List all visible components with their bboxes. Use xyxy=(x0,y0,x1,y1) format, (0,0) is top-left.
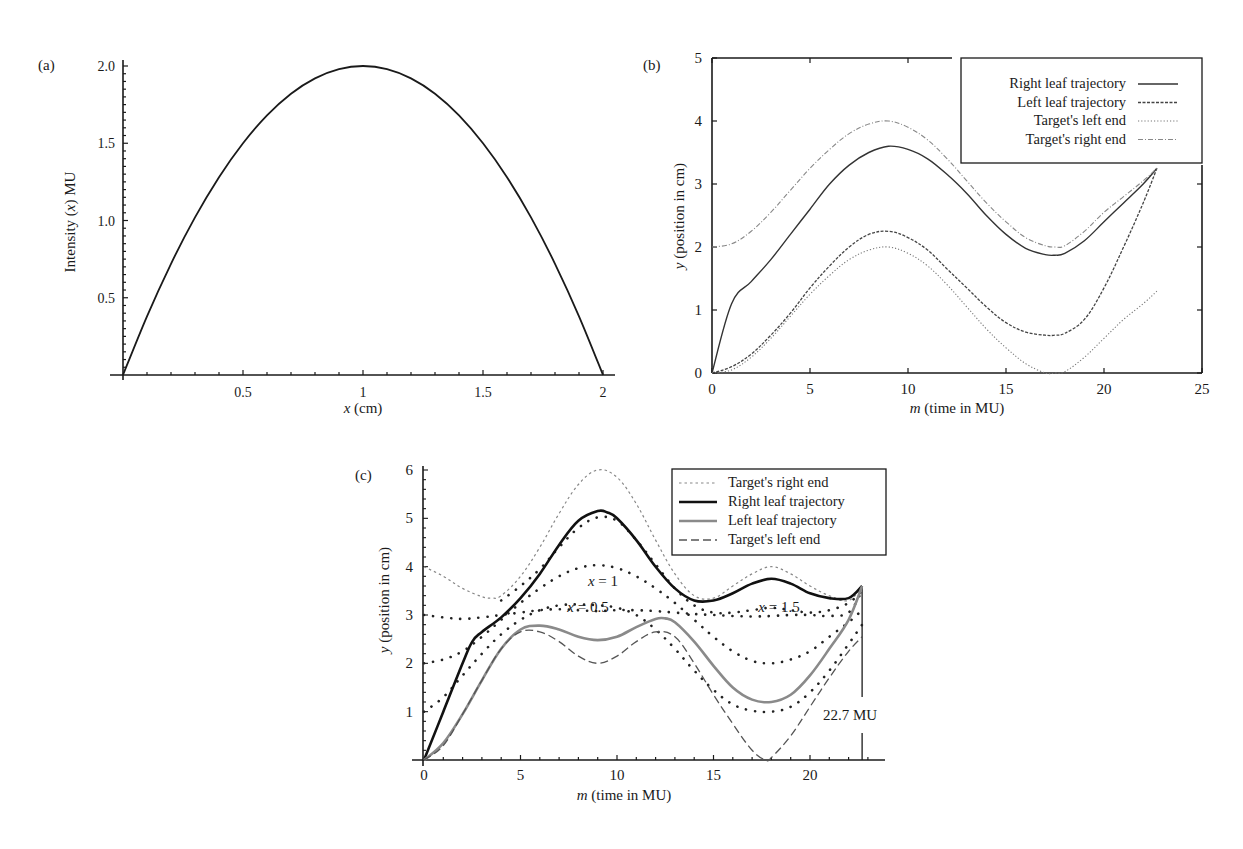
y-tick-label-b: 4 xyxy=(695,113,703,129)
x-axis-label-b: m (time in MU) xyxy=(910,400,1005,417)
y-tick-label-b: 0 xyxy=(695,365,703,381)
legend-box-b xyxy=(961,58,1202,163)
y-tick-label-c: 4 xyxy=(406,559,414,575)
x-tick-label-c: 15 xyxy=(706,767,721,783)
legend-c: Target's right endRight leaf trajectoryL… xyxy=(672,469,886,555)
y-tick-label-b: 5 xyxy=(695,50,703,66)
y-tick-label-b: 2 xyxy=(695,239,703,255)
legend-label: Target's right end xyxy=(1026,131,1127,147)
chart-panel-b: (b) 0510152025012345 Right leaf trajecto… xyxy=(643,50,1210,417)
legend-b: Right leaf trajectoryLeft leaf trajector… xyxy=(961,58,1202,163)
y-tick-label-c: 6 xyxy=(406,462,414,478)
figure-canvas: (a) 0.511.520.51.01.52.0 x (cm) Intensit… xyxy=(0,0,1243,849)
x-tick-label-a: 1.5 xyxy=(474,385,492,400)
y-tick-label-c: 5 xyxy=(406,510,414,526)
x-tick-label-a: 1 xyxy=(360,385,367,400)
y-tick-label-a: 1.5 xyxy=(98,136,116,151)
legend-label: Left leaf trajectory xyxy=(1017,94,1126,110)
line-target-s-left-end xyxy=(424,630,862,761)
line-target-s-left-end xyxy=(712,247,1157,374)
legend-label: Left leaf trajectory xyxy=(728,512,837,528)
y-tick-label-a: 0.5 xyxy=(98,291,116,306)
y-tick-label-c: 2 xyxy=(406,655,414,671)
x-axis-label-c: m (time in MU) xyxy=(577,787,672,804)
y-tick-label-a: 2.0 xyxy=(98,59,116,74)
panel-label-c: (c) xyxy=(355,467,372,484)
annotation-x-1: x = 1 xyxy=(587,573,618,589)
x-tick-label-b: 25 xyxy=(1195,381,1210,397)
y-axis-label-a: Intensity (x) MU xyxy=(62,171,79,272)
chart-panel-c: (c) 05101520123456 x = 1x = 0.5x = 1.522… xyxy=(355,462,886,804)
x-tick-label-c: 20 xyxy=(803,767,818,783)
series-a xyxy=(123,66,603,375)
y-tick-label-b: 3 xyxy=(695,176,703,192)
x-tick-label-b: 10 xyxy=(901,381,916,397)
x-tick-label-b: 20 xyxy=(1097,381,1112,397)
y-tick-label-c: 1 xyxy=(406,704,414,720)
line-left-leaf-trajectory xyxy=(712,168,1157,373)
y-tick-label-c: 3 xyxy=(406,607,414,623)
y-tick-label-a: 1.0 xyxy=(98,214,116,229)
legend-label: Target's right end xyxy=(728,474,829,490)
line-right-leaf-trajectory xyxy=(712,146,1157,373)
panel-label-b: (b) xyxy=(643,57,661,74)
y-axis-label-c: y (position in cm) xyxy=(376,547,393,655)
x-tick-label-c: 5 xyxy=(517,767,525,783)
chart-panel-a: (a) 0.511.520.51.01.52.0 x (cm) Intensit… xyxy=(38,57,615,417)
legend-label: Target's left end xyxy=(728,531,821,547)
legend-label: Right leaf trajectory xyxy=(728,493,846,509)
legend-label: Right leaf trajectory xyxy=(1009,75,1127,91)
y-axis-label-b: y (position in cm) xyxy=(671,163,688,271)
x-axis-label-a: x (cm) xyxy=(343,400,383,417)
x-tick-label-c: 0 xyxy=(420,767,428,783)
annotation-x-1-5: x = 1.5 xyxy=(757,599,799,615)
annotation-x-0-5: x = 0.5 xyxy=(566,599,608,615)
x-tick-label-b: 5 xyxy=(806,381,814,397)
y-tick-label-b: 1 xyxy=(695,302,703,318)
x-tick-label-c: 10 xyxy=(610,767,625,783)
x-tick-label-b: 15 xyxy=(999,381,1014,397)
x-tick-label-b: 0 xyxy=(708,381,716,397)
legend-label: Target's left end xyxy=(1034,112,1127,128)
line-intensity-profile xyxy=(123,66,603,375)
panel-label-a: (a) xyxy=(38,57,55,74)
x-tick-label-a: 2 xyxy=(600,385,607,400)
line-x-0-5-profile xyxy=(424,604,862,712)
annotation-22-7-mu: 22.7 MU xyxy=(823,707,877,723)
x-tick-label-a: 0.5 xyxy=(234,385,252,400)
